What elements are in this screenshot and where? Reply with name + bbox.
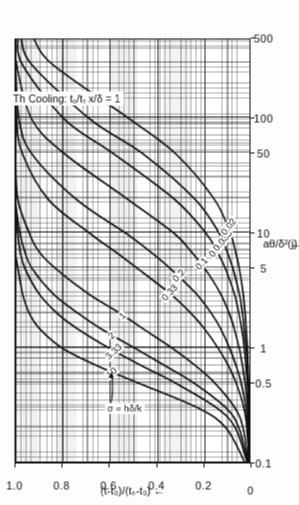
x-tick-mark [250, 267, 254, 268]
y-tick-mark [14, 463, 15, 467]
y-tick-mark [61, 463, 62, 467]
y-tick-label: 0.8 [53, 479, 70, 491]
x-tick-mark [250, 152, 254, 153]
x-tick-mark [250, 37, 254, 38]
y-tick-label: 0.2 [195, 479, 212, 491]
rotated-figure-wrapper: 0.10.5151050100500 00.20.40.60.81.0 103.… [0, 0, 299, 505]
x-tick-mark [250, 117, 254, 118]
figure-note-3: x/δ = 1 [85, 91, 123, 105]
y-axis-arrow: ← [150, 485, 164, 497]
y-axis-title-text: (t-t₀)/(tₛ-t₀) [100, 485, 150, 497]
y-tick-mark [203, 463, 204, 467]
panel-identifier: (j) [287, 237, 297, 249]
y-axis-title: (t-t₀)/(tₛ-t₀) ← [100, 485, 164, 498]
y-tick-label: 1.0 [6, 479, 23, 491]
x-tick-label: 100 [253, 112, 273, 124]
x-tick-label: 500 [253, 32, 273, 44]
x-tick-mark [250, 382, 254, 383]
x-tick-mark [250, 347, 254, 348]
y-tick-label: 0 [247, 484, 254, 496]
chart-figure: 0.10.5151050100500 00.20.40.60.81.0 103.… [0, 0, 299, 505]
y-tick-mark [250, 463, 251, 467]
y-tick-mark [156, 463, 157, 467]
x-tick-label: 0.1 [255, 457, 272, 469]
x-tick-label: 50 [256, 147, 269, 159]
x-tick-label: 1 [260, 342, 267, 354]
x-tick-label: 0.5 [255, 377, 272, 389]
x-axis-title-text: aθ/δ² [262, 237, 287, 249]
x-tick-label: 5 [260, 262, 267, 274]
sigma-definition-label: σ = hδ/k [105, 403, 144, 414]
y-tick-mark [108, 463, 109, 467]
x-tick-mark [250, 232, 254, 233]
